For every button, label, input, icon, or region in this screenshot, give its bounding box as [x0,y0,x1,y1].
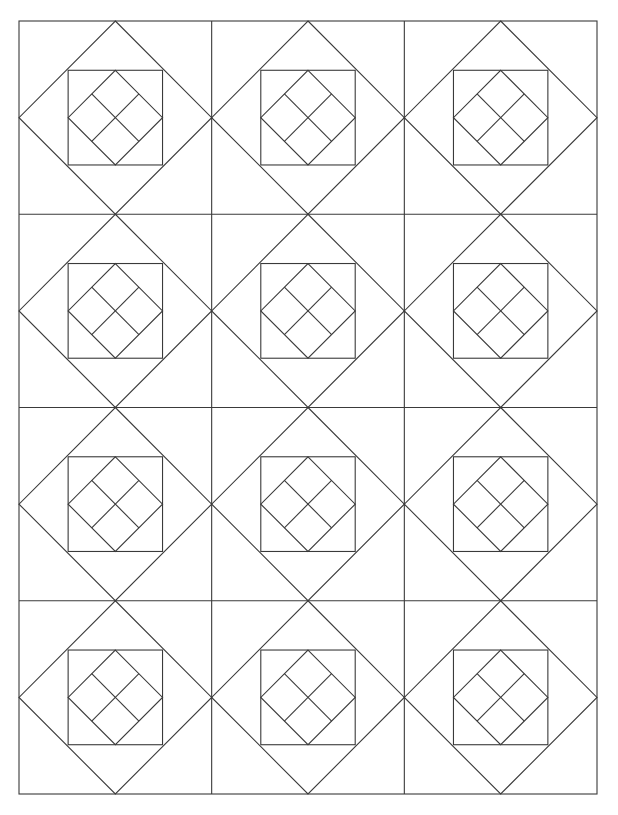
quilt-pattern [0,0,618,815]
